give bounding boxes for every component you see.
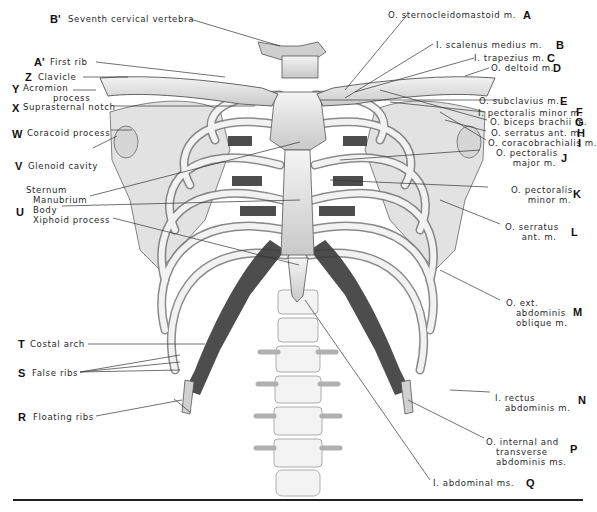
label-sternocleidomastoid: O. sternocleidomastoid m.: [388, 10, 516, 20]
label-trapezius: I. trapezius m.: [474, 53, 545, 63]
label-letter-A-prime: A': [34, 56, 45, 68]
bottom-rule: [13, 499, 583, 501]
label-suprasternal-notch: Suprasternal notch: [23, 102, 116, 112]
label-letter-Y: Y: [12, 83, 19, 95]
label-ext-abdominis-oblique: O. ext. abdominis oblique m.: [506, 298, 568, 328]
label-glenoid-cavity: Glenoid cavity: [28, 161, 98, 171]
label-scalenus-medius: I. scalenus medius m.: [436, 40, 542, 50]
label-letter-V: V: [15, 160, 22, 172]
label-body: Body: [33, 205, 57, 215]
seventh-cervical-vertebra: [258, 42, 326, 78]
label-letter-W: W: [12, 128, 22, 140]
label-serratus-ant-origin: O. serratus ant. m.: [491, 128, 583, 138]
label-letter-Q: Q: [526, 477, 535, 489]
label-seventh-cervical-vertebra: Seventh cervical vertebra: [68, 14, 194, 24]
label-internal-transverse-abdominis: O. internal and transverse abdominis ms.: [486, 437, 567, 467]
label-clavicle: Clavicle: [38, 72, 76, 82]
label-letter-D: D: [553, 62, 561, 74]
label-biceps-brachii: O. biceps brachii m.: [490, 117, 587, 127]
label-subclavius: O. subclavius m.: [479, 96, 559, 106]
label-letter-I: I: [578, 137, 581, 149]
label-pectoralis-minor-origin: O. pectoralis minor m.: [511, 185, 573, 205]
label-xiphoid-process: Xiphoid process: [33, 215, 110, 225]
label-letter-B-prime: B': [50, 13, 61, 25]
label-letter-S: S: [18, 367, 25, 379]
label-pectoralis-major: O. pectoralis major m.: [496, 148, 558, 168]
lumbar-spine: [256, 290, 340, 496]
label-costal-arch: Costal arch: [30, 339, 85, 349]
label-letter-L: L: [571, 226, 578, 238]
label-letter-A: A: [523, 9, 531, 21]
label-letter-J: J: [561, 152, 567, 164]
label-false-ribs: False ribs: [32, 368, 78, 378]
label-floating-ribs: Floating ribs: [33, 412, 94, 422]
label-abdominal-muscles-insertion: I. abdominal ms.: [433, 478, 514, 488]
label-letter-U: U: [16, 206, 24, 218]
label-sternum: Sternum: [26, 185, 67, 195]
label-letter-B: B: [556, 39, 564, 51]
label-letter-P: P: [570, 443, 577, 455]
label-letter-X: X: [12, 102, 19, 114]
label-letter-E: E: [560, 95, 567, 107]
label-letter-M: M: [573, 306, 582, 318]
label-letter-N: N: [578, 394, 586, 406]
label-coracoid-process: Coracoid process: [27, 128, 110, 138]
label-serratus-ant-origin-lower: O. serratus ant. m.: [505, 222, 559, 242]
label-letter-T: T: [18, 338, 25, 350]
label-letter-K: K: [573, 188, 581, 200]
label-letter-R: R: [18, 411, 26, 423]
label-rectus-abdominis: I. rectus abdominis m.: [495, 393, 571, 413]
label-first-rib: First rib: [50, 57, 88, 67]
label-manubrium: Manubrium: [33, 195, 87, 205]
label-letter-Z: Z: [25, 71, 32, 83]
label-deltoid: O. deltoid m.: [491, 63, 554, 73]
label-acromion-process: Acromion process: [23, 83, 90, 103]
